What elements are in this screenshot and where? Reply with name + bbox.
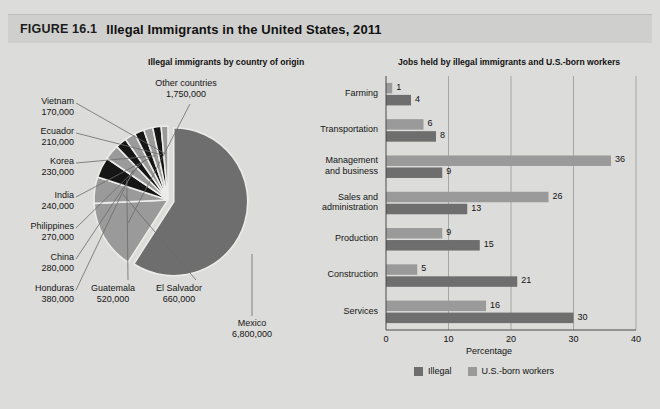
bar-value-label: 4 bbox=[415, 94, 420, 104]
bar-x-tick-label: 10 bbox=[437, 334, 461, 344]
bar-category-label: Farming bbox=[318, 88, 378, 99]
bar-rect bbox=[386, 95, 411, 106]
bar-rect bbox=[386, 131, 436, 142]
bar-value-label: 36 bbox=[615, 154, 625, 164]
legend-label: Illegal bbox=[428, 366, 452, 376]
bar-rect bbox=[386, 228, 442, 239]
pie-chart-panel: Vietnam 170,000 Ecuador 210,000 Korea 23… bbox=[0, 68, 320, 368]
bar-value-label: 8 bbox=[440, 130, 445, 140]
bar-rect bbox=[386, 192, 549, 203]
pie-label-guatemala: Guatemala 520,000 bbox=[80, 283, 146, 306]
bar-value-label: 26 bbox=[553, 191, 563, 201]
figure-title: Illegal Immigrants in the United States,… bbox=[106, 22, 381, 37]
pie-chart-subtitle: Illegal immigrants by country of origin bbox=[148, 57, 304, 67]
bar-category-label: Construction bbox=[318, 269, 378, 280]
bar-rect bbox=[386, 264, 417, 275]
bar-category-label: Transportation bbox=[318, 124, 378, 135]
legend-item: Illegal bbox=[414, 366, 452, 376]
legend-swatch bbox=[414, 367, 423, 376]
legend-swatch bbox=[468, 367, 477, 376]
bar-value-label: 9 bbox=[446, 227, 451, 237]
bar-category-label: Sales andadministration bbox=[318, 192, 378, 213]
bar-rect bbox=[386, 313, 574, 324]
pie-label-other-countries: Other countries 1,750,000 bbox=[146, 78, 226, 101]
pie-label-honduras: Honduras 380,000 bbox=[4, 283, 74, 306]
legend-item: U.S.-born workers bbox=[468, 366, 555, 376]
bar-value-label: 21 bbox=[521, 275, 531, 285]
bar-category-label: Production bbox=[318, 233, 378, 244]
bar-category-label: Managementand business bbox=[318, 155, 378, 176]
bar-rect bbox=[386, 301, 486, 312]
pie-label-korea: Korea 230,000 bbox=[8, 156, 74, 179]
bar-x-tick-label: 20 bbox=[499, 334, 523, 344]
bar-x-tick-label: 0 bbox=[374, 334, 398, 344]
pie-label-india: India 240,000 bbox=[8, 190, 74, 213]
bar-rectangles bbox=[386, 83, 611, 323]
bar-value-label: 9 bbox=[446, 166, 451, 176]
bar-x-axis-title: Percentage bbox=[318, 346, 660, 356]
pie-label-vietnam: Vietnam 170,000 bbox=[8, 96, 74, 119]
bar-rect bbox=[386, 83, 392, 93]
figure-page: FIGURE 16.1 Illegal Immigrants in the Un… bbox=[0, 0, 660, 409]
pie-slices bbox=[94, 126, 248, 276]
bar-rect bbox=[386, 276, 517, 287]
bar-value-label: 6 bbox=[428, 118, 433, 128]
bar-rect bbox=[386, 167, 442, 178]
pie-label-mexico: Mexico 6,800,000 bbox=[215, 318, 289, 341]
bar-x-tick-label: 40 bbox=[624, 334, 648, 344]
bar-value-label: 13 bbox=[471, 203, 481, 213]
bar-rect bbox=[386, 240, 480, 251]
bar-rect bbox=[386, 119, 424, 130]
legend-label: U.S.-born workers bbox=[482, 366, 555, 376]
bar-value-label: 5 bbox=[421, 263, 426, 273]
bar-rect bbox=[386, 155, 611, 166]
bar-value-label: 16 bbox=[490, 300, 500, 310]
bar-category-label: Services bbox=[318, 306, 378, 317]
bar-value-label: 1 bbox=[396, 82, 401, 92]
bar-rect bbox=[386, 204, 467, 215]
bar-x-tick-label: 30 bbox=[562, 334, 586, 344]
bar-chart-subtitle: Jobs held by illegal immigrants and U.S.… bbox=[398, 57, 620, 67]
pie-label-philippines: Philippines 270,000 bbox=[2, 221, 74, 244]
figure-number: FIGURE 16.1 bbox=[20, 22, 97, 36]
pie-label-china: China 280,000 bbox=[8, 252, 74, 275]
bar-chart-svg bbox=[318, 68, 660, 368]
pie-label-el-salvador: El Salvador 660,000 bbox=[146, 283, 212, 306]
pie-label-ecuador: Ecuador 210,000 bbox=[8, 126, 74, 149]
figure-header: FIGURE 16.1 Illegal Immigrants in the Un… bbox=[8, 14, 652, 43]
bar-value-label: 15 bbox=[484, 239, 494, 249]
bar-chart-panel: FarmingTransportationManagementand busin… bbox=[318, 68, 660, 368]
bar-chart-legend: IllegalU.S.-born workers bbox=[414, 366, 554, 376]
bar-value-label: 30 bbox=[578, 312, 588, 322]
